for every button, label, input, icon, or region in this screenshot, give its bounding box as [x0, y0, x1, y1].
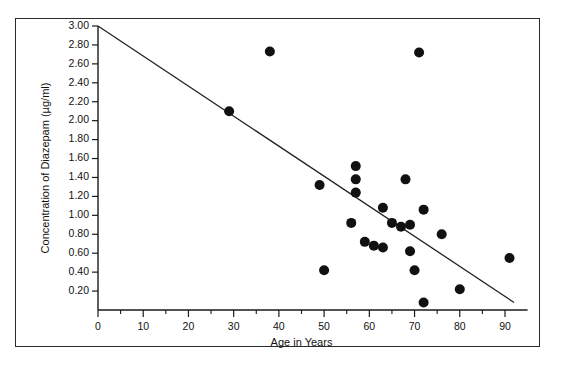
y-axis-tick-label: 0.20 — [69, 284, 90, 296]
data-point — [351, 188, 361, 198]
data-point — [319, 265, 329, 275]
data-point — [419, 205, 429, 215]
x-axis-tick-label: 80 — [454, 320, 466, 332]
data-point — [351, 174, 361, 184]
x-axis-tick-label: 50 — [318, 320, 330, 332]
data-point — [351, 161, 361, 171]
data-point — [405, 246, 415, 256]
y-axis-tick-label: 0.80 — [69, 227, 90, 239]
data-point — [346, 218, 356, 228]
data-point — [265, 47, 275, 57]
x-axis-tick-label: 0 — [95, 320, 101, 332]
y-axis-tick-label: 0.40 — [69, 265, 90, 277]
data-point — [414, 48, 424, 58]
figure-container: 0.200.400.600.801.001.201.401.601.802.00… — [0, 0, 584, 368]
scatter-plot: 0.200.400.600.801.001.201.401.601.802.00… — [0, 0, 584, 368]
x-axis-tick-label: 70 — [409, 320, 421, 332]
data-point — [378, 203, 388, 213]
data-point — [369, 241, 379, 251]
y-axis-tick-label: 0.60 — [69, 246, 90, 258]
data-point — [315, 180, 325, 190]
data-point — [419, 297, 429, 307]
data-point — [405, 220, 415, 230]
y-axis-tick-label: 1.80 — [69, 132, 90, 144]
data-point — [455, 284, 465, 294]
data-point — [224, 106, 234, 116]
x-axis-tick-label: 60 — [363, 320, 375, 332]
y-axis-tick-label: 3.00 — [69, 19, 90, 31]
y-axis-tick-label: 2.20 — [69, 95, 90, 107]
x-axis-tick-label: 30 — [228, 320, 240, 332]
regression-line — [98, 26, 514, 302]
data-point — [387, 218, 397, 228]
y-axis-tick-label: 2.80 — [69, 38, 90, 50]
data-point — [396, 222, 406, 232]
x-axis-tick-label: 10 — [137, 320, 149, 332]
y-axis-tick-label: 1.20 — [69, 189, 90, 201]
data-point — [378, 243, 388, 253]
y-axis-tick-label: 1.40 — [69, 170, 90, 182]
data-point — [360, 237, 370, 247]
y-axis-tick-label: 2.00 — [69, 113, 90, 125]
y-axis-tick-label: 1.60 — [69, 151, 90, 163]
data-point — [401, 174, 411, 184]
y-axis-tick-label: 2.40 — [69, 76, 90, 88]
x-axis-tick-label: 40 — [273, 320, 285, 332]
x-axis-tick-label: 20 — [183, 320, 195, 332]
y-axis-tick-label: 2.60 — [69, 57, 90, 69]
x-axis-tick-label: 90 — [499, 320, 511, 332]
x-axis-title: Age in Years — [271, 336, 333, 348]
y-axis-title: Concentration of Diazepam (µg/ml) — [39, 83, 51, 254]
data-point — [505, 253, 515, 263]
data-point — [437, 229, 447, 239]
y-axis-tick-label: 1.00 — [69, 208, 90, 220]
data-point — [410, 265, 420, 275]
